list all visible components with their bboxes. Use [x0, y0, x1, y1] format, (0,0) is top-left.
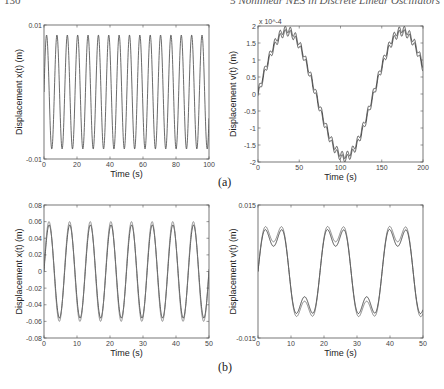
x-tick-label: 50: [295, 164, 303, 171]
chart-b-left: 01020304050-0.08-0.06-0.04-0.0200.020.04…: [14, 202, 213, 359]
y-tick-label: -0.015: [236, 335, 256, 342]
chart-a-right: 050100150200-2-1.5-1-0.500.511.52x 10^-4…: [228, 18, 429, 182]
x-tick-label: 200: [417, 164, 429, 171]
y-tick-label: 0.5: [246, 74, 256, 81]
y-tick-label: -0.06: [26, 318, 42, 325]
y-tick-label: 1: [252, 57, 256, 64]
series-line: [258, 26, 423, 158]
y-axis-label: Displacement v(t) (m): [228, 228, 238, 314]
x-tick-label: 10: [287, 340, 295, 347]
x-axis-label: Time (s): [324, 348, 357, 358]
x-tick-label: 100: [203, 161, 215, 168]
series-line: [44, 35, 209, 149]
y-tick-label: -1.5: [244, 142, 256, 149]
panel-label-b: (b): [218, 360, 232, 375]
x-tick-label: 40: [106, 161, 114, 168]
x-tick-label: 20: [320, 340, 328, 347]
x-tick-label: 150: [376, 164, 388, 171]
x-tick-label: 0: [42, 340, 46, 347]
figure-canvas: 020406080100-0.010.01Time (s)Displacemen…: [0, 0, 444, 389]
x-tick-label: 50: [419, 340, 427, 347]
x-tick-label: 30: [353, 340, 361, 347]
y-tick-label: -0.08: [26, 335, 42, 342]
y-tick-label: -2: [250, 159, 256, 166]
y-tick-label: -0.02: [26, 285, 42, 292]
chart-a-left: 020406080100-0.010.01Time (s)Displacemen…: [14, 22, 215, 180]
chart-b-right: 01020304050-0.0150.015Time (s)Displaceme…: [228, 202, 427, 359]
x-tick-label: 50: [205, 340, 213, 347]
x-tick-label: 60: [139, 161, 147, 168]
x-tick-label: 0: [256, 340, 260, 347]
y-axis-label: Displacement x(t) (m): [14, 49, 24, 135]
x-axis-label: Time (s): [110, 348, 143, 358]
x-tick-label: 10: [73, 340, 81, 347]
axes-box: [258, 205, 423, 338]
panel-label-a: (a): [218, 175, 231, 190]
x-tick-label: 20: [106, 340, 114, 347]
axes-box: [258, 26, 423, 162]
x-tick-label: 40: [172, 340, 180, 347]
x-axis-label: Time (s): [324, 172, 357, 182]
x-axis-label: Time (s): [110, 169, 143, 179]
y-tick-label: 0: [38, 268, 42, 275]
x-tick-label: 80: [172, 161, 180, 168]
series-line: [258, 226, 423, 316]
y-tick-label: 0.04: [28, 235, 42, 242]
y-tick-label: 2: [252, 23, 256, 30]
y-axis-label: Displacement x(t) (m): [14, 228, 24, 314]
y-tick-label: -1: [250, 125, 256, 132]
x-tick-label: 0: [42, 161, 46, 168]
y-tick-label: 0.06: [28, 218, 42, 225]
series-line: [258, 30, 423, 162]
x-tick-label: 0: [256, 164, 260, 171]
y-tick-label: 1.5: [246, 40, 256, 47]
y-tick-label: 0: [252, 91, 256, 98]
y-axis-label: Displacement v(t) (m): [228, 51, 238, 137]
y-tick-label: -0.5: [244, 108, 256, 115]
y-tick-label: -0.04: [26, 301, 42, 308]
x-tick-label: 20: [73, 161, 81, 168]
y-tick-label: 0.015: [238, 202, 256, 209]
y-tick-label: 0.01: [28, 22, 42, 29]
y-tick-label: 0.08: [28, 202, 42, 209]
y-tick-label: -0.01: [26, 156, 42, 163]
x-tick-label: 40: [386, 340, 394, 347]
y-tick-label: 0.02: [28, 251, 42, 258]
x-tick-label: 100: [335, 164, 347, 171]
series-line: [44, 222, 209, 322]
axis-multiplier: x 10^-4: [259, 18, 282, 25]
x-tick-label: 30: [139, 340, 147, 347]
